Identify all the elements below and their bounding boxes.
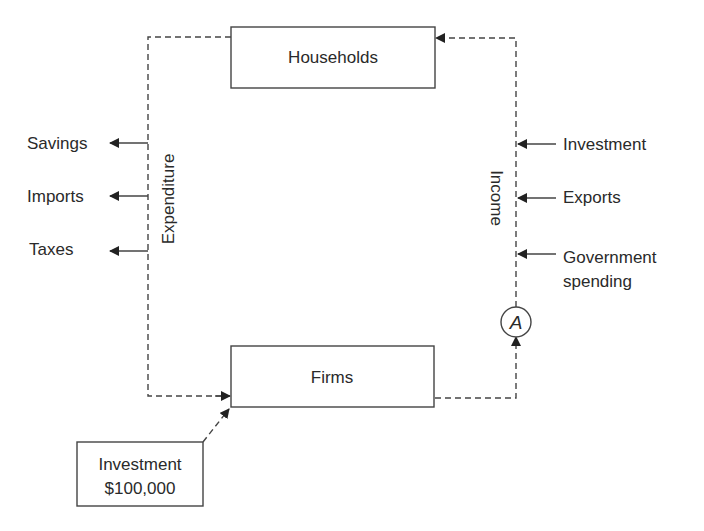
investment-box-label: Investment: [98, 455, 181, 474]
leakage-imports: Imports: [27, 187, 148, 206]
injection-label-line2: spending: [563, 272, 632, 291]
households-label: Households: [288, 48, 378, 67]
injection-label: Investment: [563, 135, 646, 154]
circular-flow-diagram: A Households Firms Investment $100,000 E…: [0, 0, 704, 531]
point-a-label: A: [509, 312, 523, 333]
expenditure-label: Expenditure: [159, 154, 178, 245]
income-flow-line-lower: [435, 344, 516, 398]
injection-investment: Investment: [518, 135, 646, 154]
investment-injection-node: Investment $100,000: [77, 442, 203, 506]
leakage-savings: Savings: [27, 134, 148, 153]
point-a-node: A: [501, 307, 531, 337]
injection-government-spending: Government spending: [518, 248, 657, 291]
firms-node: Firms: [231, 346, 434, 407]
households-node: Households: [231, 27, 435, 88]
income-label: Income: [487, 170, 506, 226]
investment-to-firms-arrow: [203, 409, 229, 442]
leakage-label: Taxes: [29, 240, 73, 259]
leakage-label: Savings: [27, 134, 87, 153]
injection-label: Government: [563, 248, 657, 267]
firms-label: Firms: [311, 368, 353, 387]
leakage-taxes: Taxes: [29, 240, 148, 259]
injection-exports: Exports: [518, 188, 621, 207]
leakage-label: Imports: [27, 187, 84, 206]
investment-box-amount: $100,000: [105, 479, 176, 498]
injection-label: Exports: [563, 188, 621, 207]
